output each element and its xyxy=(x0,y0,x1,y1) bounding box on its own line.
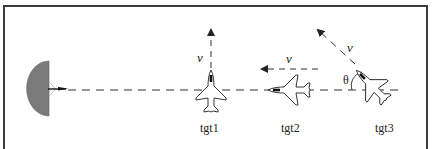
radar-dish-icon xyxy=(27,61,68,116)
diagram-canvas: v tgt1 v tgt2 v θ tgt3 xyxy=(0,0,434,149)
aircraft-icon xyxy=(196,70,226,112)
velocity-label-tgt2: v xyxy=(286,51,292,66)
target-label-tgt2: tgt2 xyxy=(281,121,300,135)
radar-target-geometry-diagram: v tgt1 v tgt2 v θ tgt3 xyxy=(0,0,434,149)
target-label-tgt1: tgt1 xyxy=(200,121,219,135)
target-label-tgt3: tgt3 xyxy=(375,121,394,135)
aircraft-icon xyxy=(346,60,397,111)
target-tgt2: v tgt2 xyxy=(262,51,318,135)
angle-label-theta: θ xyxy=(343,73,349,87)
velocity-label-tgt3: v xyxy=(347,40,353,55)
target-tgt3: v θ tgt3 xyxy=(318,30,397,135)
aircraft-icon xyxy=(268,75,310,105)
velocity-label-tgt1: v xyxy=(197,50,203,65)
target-tgt1: v tgt1 xyxy=(196,30,226,135)
